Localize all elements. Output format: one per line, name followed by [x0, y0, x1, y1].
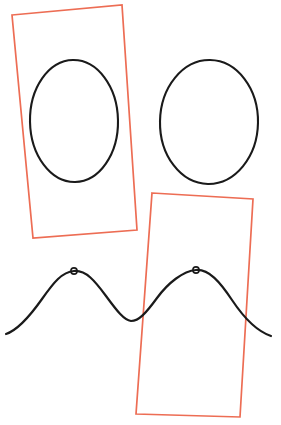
drawing-canvas[interactable] [0, 0, 281, 425]
shapes-svg-layer [0, 0, 281, 425]
sine-wave-curve[interactable] [6, 270, 271, 336]
ellipse-left[interactable] [29, 59, 119, 183]
ellipse-right[interactable] [159, 59, 259, 185]
